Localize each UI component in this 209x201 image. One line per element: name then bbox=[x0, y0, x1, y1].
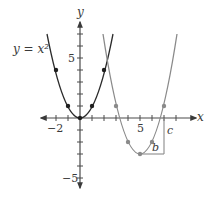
tick-label-y-neg5: −5 bbox=[62, 172, 78, 185]
tick-label-x-5: 5 bbox=[137, 122, 144, 135]
bracket-label-c: c bbox=[167, 124, 173, 137]
tick-label-y-5: 5 bbox=[68, 52, 75, 65]
y-axis-label: y bbox=[76, 5, 84, 19]
translated-parabola-diagram: y = x² y x −2 5 5 −5 b c bbox=[0, 0, 209, 201]
x-axis-label: x bbox=[197, 110, 204, 124]
graph-canvas: y = x² y x −2 5 5 −5 b c bbox=[0, 0, 209, 201]
bracket-label-b: b bbox=[152, 141, 159, 154]
parabola-shifted bbox=[103, 34, 177, 154]
tick-label-x-neg2: −2 bbox=[47, 122, 63, 135]
curve-label: y = x² bbox=[12, 42, 49, 56]
